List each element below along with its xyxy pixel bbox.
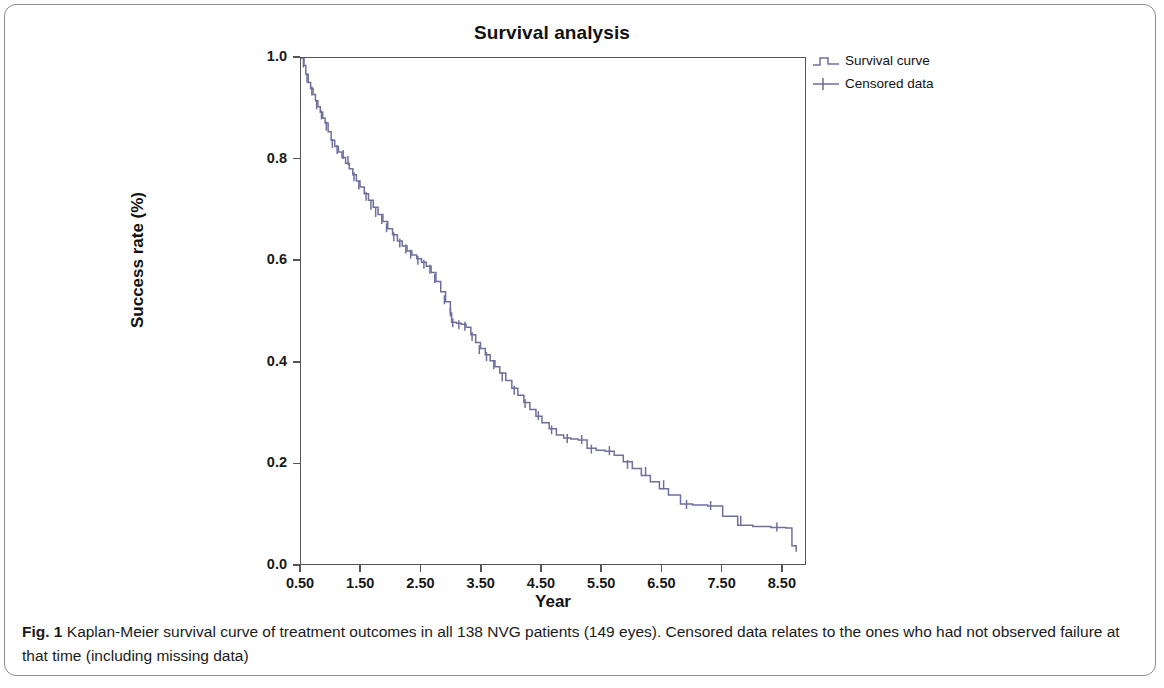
chart-legend: Survival curve Censored data bbox=[812, 50, 992, 96]
x-tick-label: 3.50 bbox=[451, 575, 511, 591]
y-tick-mark bbox=[293, 259, 300, 261]
y-tick-mark bbox=[293, 56, 300, 58]
x-tick-label: 1.50 bbox=[330, 575, 390, 591]
legend-item-censored-data: Censored data bbox=[812, 73, 992, 94]
x-tick-mark bbox=[540, 565, 542, 572]
chart-title: Survival analysis bbox=[0, 22, 1104, 44]
censored-data-markers bbox=[303, 59, 776, 532]
survival-analysis-chart: Survival analysis Success rate (%) Year … bbox=[0, 0, 1164, 618]
plus-marker-icon bbox=[812, 76, 840, 92]
x-tick-label: 2.50 bbox=[390, 575, 450, 591]
x-tick-mark bbox=[480, 565, 482, 572]
step-line-icon bbox=[812, 53, 840, 69]
y-tick-label: 1.0 bbox=[243, 48, 287, 64]
y-tick-label: 0.0 bbox=[243, 556, 287, 572]
y-tick-label: 0.2 bbox=[243, 454, 287, 470]
legend-label-survival-curve: Survival curve bbox=[845, 53, 930, 68]
figure-caption-text: Kaplan-Meier survival curve of treatment… bbox=[22, 623, 1120, 664]
x-tick-mark bbox=[359, 565, 361, 572]
legend-item-survival-curve: Survival curve bbox=[812, 50, 992, 71]
x-tick-mark bbox=[299, 565, 301, 572]
legend-label-censored-data: Censored data bbox=[845, 76, 934, 91]
x-tick-label: 8.50 bbox=[752, 575, 812, 591]
y-axis-label: Success rate (%) bbox=[128, 100, 148, 420]
y-tick-label: 0.6 bbox=[243, 251, 287, 267]
survival-curve bbox=[301, 58, 796, 552]
y-tick-mark bbox=[293, 463, 300, 465]
x-tick-mark bbox=[420, 565, 422, 572]
figure-caption: Fig. 1 Kaplan-Meier survival curve of tr… bbox=[22, 620, 1132, 668]
plot-canvas bbox=[301, 58, 807, 566]
x-tick-label: 5.50 bbox=[571, 575, 631, 591]
y-tick-mark bbox=[293, 361, 300, 363]
x-tick-mark bbox=[721, 565, 723, 572]
x-tick-label: 4.50 bbox=[511, 575, 571, 591]
x-axis-label: Year bbox=[300, 592, 806, 612]
figure-page: Survival analysis Success rate (%) Year … bbox=[0, 0, 1164, 688]
y-tick-label: 0.8 bbox=[243, 150, 287, 166]
x-tick-mark bbox=[600, 565, 602, 572]
survival-curve-path bbox=[301, 58, 796, 552]
figure-caption-prefix: Fig. 1 bbox=[22, 623, 62, 640]
x-tick-label: 7.50 bbox=[692, 575, 752, 591]
y-tick-mark bbox=[293, 158, 300, 160]
y-tick-label: 0.4 bbox=[243, 353, 287, 369]
x-tick-label: 6.50 bbox=[631, 575, 691, 591]
x-tick-mark bbox=[781, 565, 783, 572]
x-tick-mark bbox=[661, 565, 663, 572]
x-tick-label: 0.50 bbox=[270, 575, 330, 591]
plot-frame bbox=[300, 57, 806, 565]
